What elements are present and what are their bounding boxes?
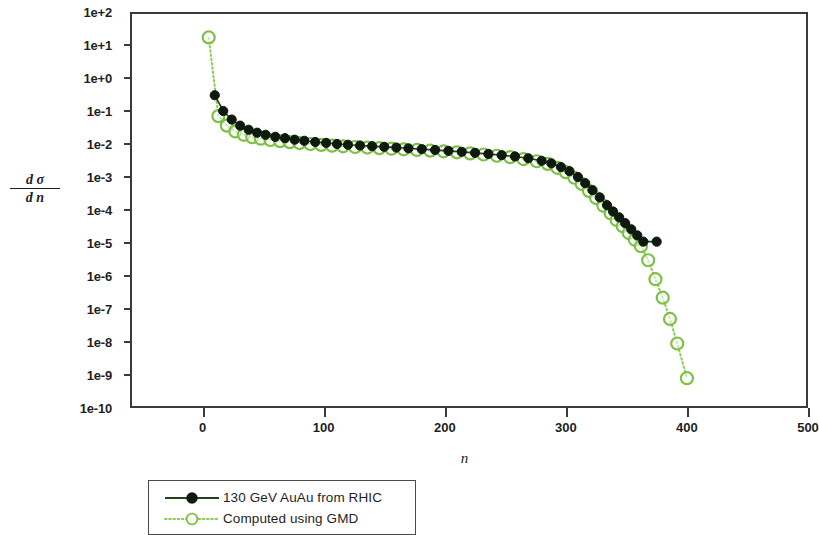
data-point bbox=[595, 193, 604, 202]
series-plot bbox=[130, 12, 808, 408]
data-point bbox=[470, 148, 479, 157]
data-point bbox=[652, 237, 661, 246]
data-point bbox=[484, 149, 493, 158]
data-point bbox=[537, 156, 546, 165]
x-axis-title: n bbox=[0, 450, 819, 467]
y-tick-label: 1e-3 bbox=[87, 170, 112, 185]
y-tick-label: 1e+1 bbox=[84, 38, 112, 53]
x-tick-label: 500 bbox=[797, 420, 819, 435]
x-tick-mark bbox=[203, 408, 205, 417]
y-tick-label: 1e-1 bbox=[87, 104, 112, 119]
x-tick-mark bbox=[324, 408, 326, 417]
x-tick-mark bbox=[445, 408, 447, 417]
data-point bbox=[524, 154, 533, 163]
legend-label-gmd: Computed using GMD bbox=[223, 511, 358, 526]
data-point bbox=[368, 142, 377, 151]
x-tick-label: 0 bbox=[199, 420, 206, 435]
legend-item-rhic[interactable]: 130 GeV AuAu from RHIC bbox=[149, 487, 415, 508]
data-point bbox=[510, 152, 519, 161]
y-tick-label: 1e+2 bbox=[84, 5, 112, 20]
data-point bbox=[664, 313, 676, 325]
y-tick-label: 1e+0 bbox=[84, 71, 112, 86]
data-point bbox=[444, 146, 453, 155]
data-point bbox=[343, 140, 352, 149]
data-point bbox=[639, 237, 648, 246]
data-point bbox=[322, 138, 331, 147]
y-tick-label: 1e-4 bbox=[87, 203, 112, 218]
data-point bbox=[332, 139, 341, 148]
data-point bbox=[219, 106, 228, 115]
data-point bbox=[271, 132, 280, 141]
y-tick-label: 1e-9 bbox=[87, 368, 112, 383]
data-point bbox=[581, 179, 590, 188]
series-gmd bbox=[203, 31, 693, 384]
data-point bbox=[253, 128, 262, 137]
data-point bbox=[556, 162, 565, 171]
data-point bbox=[404, 144, 413, 153]
y-tick-label: 1e-10 bbox=[80, 401, 112, 416]
data-point bbox=[392, 143, 401, 152]
series-line bbox=[215, 95, 657, 241]
legend: 130 GeV AuAu from RHIC Computed using GM… bbox=[148, 480, 416, 535]
legend-symbol-open-circle-icon bbox=[161, 510, 223, 528]
data-point bbox=[236, 121, 245, 130]
series-rhic bbox=[210, 91, 661, 247]
x-tick-label: 200 bbox=[434, 420, 456, 435]
data-point bbox=[210, 91, 219, 100]
y-axis: 1e+21e+11e+01e-11e-21e-31e-41e-51e-61e-7… bbox=[0, 0, 130, 420]
data-point bbox=[280, 134, 289, 143]
data-point bbox=[203, 31, 215, 43]
data-point bbox=[244, 125, 253, 134]
x-tick-mark bbox=[808, 408, 810, 417]
data-point bbox=[565, 167, 574, 176]
x-tick-label: 100 bbox=[313, 420, 335, 435]
legend-item-gmd[interactable]: Computed using GMD bbox=[149, 508, 415, 529]
y-tick-label: 1e-7 bbox=[87, 302, 112, 317]
figure-container: d σ d n 1e+21e+11e+01e-11e-21e-31e-41e-5… bbox=[0, 0, 819, 535]
data-point bbox=[681, 372, 693, 384]
data-point bbox=[227, 115, 236, 124]
x-axis-title-text: n bbox=[461, 450, 469, 466]
x-tick-mark bbox=[687, 408, 689, 417]
legend-symbol-filled-circle-icon bbox=[161, 489, 223, 507]
data-point bbox=[311, 137, 320, 146]
data-point bbox=[355, 141, 364, 150]
legend-label-rhic: 130 GeV AuAu from RHIC bbox=[223, 490, 382, 505]
data-point bbox=[588, 186, 597, 195]
data-point bbox=[547, 159, 556, 168]
y-tick-label: 1e-5 bbox=[87, 236, 112, 251]
y-tick-label: 1e-8 bbox=[87, 335, 112, 350]
y-tick-label: 1e-2 bbox=[87, 137, 112, 152]
data-point bbox=[642, 254, 654, 266]
x-tick-label: 400 bbox=[676, 420, 698, 435]
x-tick-label: 300 bbox=[555, 420, 577, 435]
data-point bbox=[657, 292, 669, 304]
data-point bbox=[417, 145, 426, 154]
data-point bbox=[261, 130, 270, 139]
data-point bbox=[431, 145, 440, 154]
y-tick-label: 1e-6 bbox=[87, 269, 112, 284]
x-tick-mark bbox=[566, 408, 568, 417]
data-point bbox=[497, 151, 506, 160]
data-point bbox=[671, 338, 683, 350]
data-point bbox=[457, 147, 466, 156]
data-layer bbox=[130, 12, 808, 408]
data-point bbox=[300, 136, 309, 145]
data-point bbox=[380, 142, 389, 151]
data-point bbox=[290, 135, 299, 144]
data-point bbox=[649, 273, 661, 285]
